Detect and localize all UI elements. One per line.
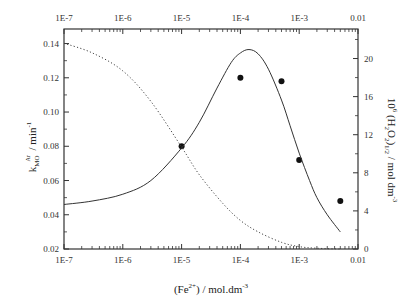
y-right-tick-label: 12 [364, 130, 373, 140]
x-tick-label: 1E-4 [232, 255, 250, 265]
y-axis-left-title: kMOAr / min-1 [25, 121, 41, 172]
data-point [237, 75, 243, 81]
x-tick-label: 0.01 [350, 13, 366, 23]
x-tick-label: 1E-3 [290, 255, 308, 265]
x-axis-bottom: 1E-71E-61E-51E-41E-30.01 [55, 244, 366, 265]
y-left-tick-label: 0.12 [43, 73, 59, 83]
y-left-tick-label: 0.08 [43, 141, 59, 151]
y-right-tick-label: 8 [364, 168, 369, 178]
y-right-tick-label: 0 [364, 244, 369, 254]
x-axis-top: 1E-71E-61E-51E-41E-30.01 [55, 13, 366, 34]
x-tick-label: 1E-5 [173, 255, 191, 265]
model-curve-solid [64, 50, 340, 232]
data-point [278, 78, 284, 84]
x-tick-label: 1E-4 [232, 13, 250, 23]
y-left-tick-label: 0.02 [43, 244, 59, 254]
y-right-tick-label: 20 [364, 54, 374, 64]
h2o2-curve-dotted [64, 43, 340, 249]
x-tick-label: 1E-5 [173, 13, 191, 23]
y-right-tick-label: 4 [364, 206, 369, 216]
y-axis-right: 048121620 [353, 39, 374, 254]
y-left-tick-label: 0.10 [43, 107, 59, 117]
y-left-tick-label: 0.06 [43, 176, 59, 186]
x-tick-label: 1E-6 [114, 13, 132, 23]
x-tick-label: 1E-7 [55, 13, 73, 23]
y-axis-right-title: 106 (H2O2)1/2 / mol dm-3 [383, 98, 399, 203]
x-tick-label: 1E-6 [114, 255, 132, 265]
x-tick-label: 1E-7 [55, 255, 73, 265]
x-axis-title: (Fe2+) / mol.dm-3 [174, 282, 249, 296]
chart: 1E-71E-61E-51E-41E-30.01 1E-71E-61E-51E-… [0, 0, 414, 302]
x-tick-label: 0.01 [350, 255, 366, 265]
y-left-tick-label: 0.04 [43, 210, 59, 220]
series-layer [64, 43, 343, 249]
y-axis-left: 0.020.040.060.080.100.120.14 [43, 39, 69, 254]
data-point [337, 198, 343, 204]
y-right-tick-label: 16 [364, 92, 374, 102]
plot-border [64, 29, 358, 249]
y-left-tick-label: 0.14 [43, 39, 59, 49]
plot-frame [64, 29, 358, 249]
x-tick-label: 1E-3 [290, 13, 308, 23]
